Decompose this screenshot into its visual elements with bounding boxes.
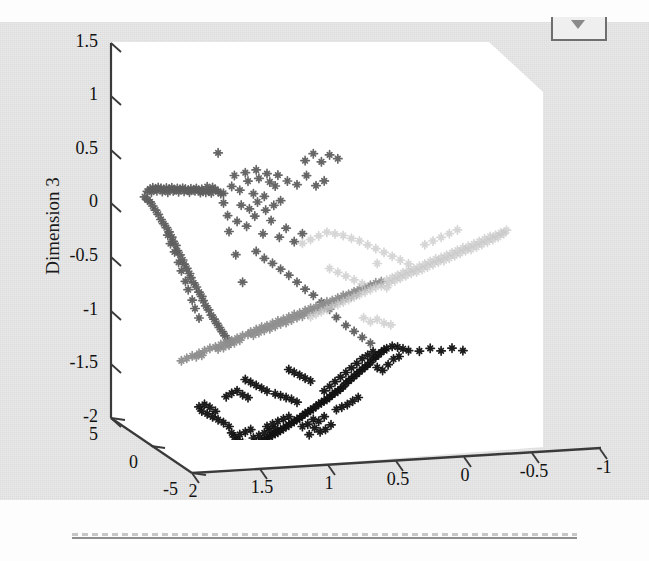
triangle-down-icon: [571, 20, 585, 29]
z-tick-label-6: -1.5: [40, 352, 98, 373]
y-tick-label-5: -0.5: [506, 461, 562, 482]
y-tick-label-6: -1: [582, 457, 626, 478]
y-tick-label-3: 0.5: [376, 469, 420, 490]
y-tick-label-4: 0: [448, 465, 482, 486]
z-axis-title: Dimension 3: [42, 151, 64, 301]
y-tick-label-0: 2: [176, 481, 210, 502]
figure-panel: 1.5 1 0.5 0 -0.5 -1 -1.5 -2 5 0 -5 2 1.5…: [0, 0, 649, 561]
page-margin-bottom: [0, 500, 649, 561]
z-tick-label-5: -1: [40, 299, 98, 320]
x-depth-tick-label-0: 5: [40, 424, 98, 445]
z-tick-label-1: 1: [40, 84, 98, 105]
x-depth-tick-label-1: 0: [80, 452, 138, 473]
page-rule: [72, 537, 577, 539]
y-tick-label-2: 1: [312, 473, 346, 494]
plot-area-face: [112, 42, 543, 474]
page-rule-dashes: [72, 533, 577, 536]
y-tick-label-1: 1.5: [240, 477, 284, 498]
z-tick-label-0: 1.5: [40, 31, 98, 52]
x-depth-tick-label-2: -5: [120, 479, 178, 500]
